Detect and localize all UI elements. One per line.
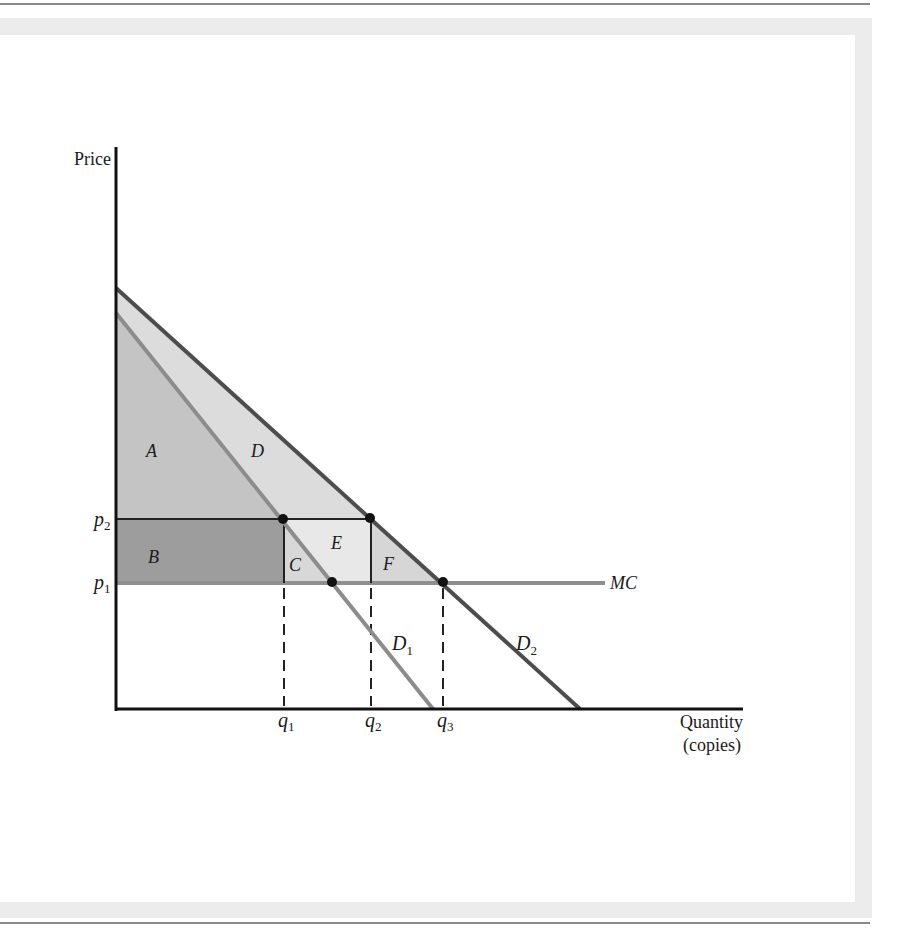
point-d1-p1 [327,577,337,587]
q1-label: q1 [278,709,295,734]
point-d2-p2 [365,513,375,523]
region-c-label: C [289,555,302,575]
demand-diagram: Price Quantity (copies) p2 p1 q1 q2 q3 D… [0,0,900,938]
point-d1-p2 [278,514,288,524]
point-d2-p1 [438,577,448,587]
region-b-label: B [148,547,159,567]
d1-label: D1 [391,632,413,658]
region-f-label: F [382,554,395,574]
region-e-label: E [330,533,342,553]
p2-label: p2 [92,508,111,533]
region-b [116,519,284,583]
mc-label: MC [609,573,638,593]
region-a-label: A [145,441,158,461]
x-axis-unit: (copies) [683,735,741,756]
q3-label: q3 [437,709,454,734]
p1-label: p1 [92,571,111,596]
y-axis-label: Price [74,149,111,169]
region-d-label: D [250,441,264,461]
x-axis-label: Quantity [680,712,743,732]
q2-label: q2 [365,709,382,734]
